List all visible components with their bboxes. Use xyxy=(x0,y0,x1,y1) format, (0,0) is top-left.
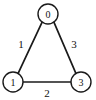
node-0-label: 0 xyxy=(46,9,51,20)
graph-canvas: 0 1 3 1 3 2 xyxy=(0,0,96,100)
node-1-label: 1 xyxy=(11,77,16,88)
edge-weight-0-1: 1 xyxy=(18,38,24,50)
edge-weight-0-3: 3 xyxy=(71,38,77,50)
edge-weight-1-3: 2 xyxy=(44,87,50,99)
node-3-label: 3 xyxy=(79,77,84,88)
graph-figure: 0 1 3 1 3 2 xyxy=(0,0,96,100)
